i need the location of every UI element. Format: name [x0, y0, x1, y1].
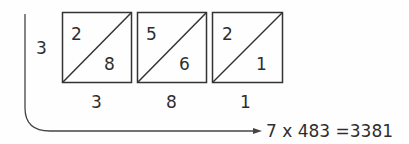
row-multiplier: 3 [36, 40, 47, 57]
result-equation: 7 x 483 =3381 [266, 123, 393, 140]
cell-1-tens: 2 [71, 26, 82, 43]
cell-3-units: 1 [256, 56, 267, 73]
cell-2-units: 6 [179, 56, 190, 73]
cell-2-tens: 5 [146, 26, 157, 43]
arrow-head-icon [253, 128, 262, 134]
cell-3-tens: 2 [222, 26, 233, 43]
bottom-digit-1: 3 [91, 94, 102, 111]
bottom-digit-2: 8 [166, 94, 177, 111]
bottom-digit-3: 1 [240, 94, 251, 111]
cell-1-units: 8 [104, 56, 115, 73]
